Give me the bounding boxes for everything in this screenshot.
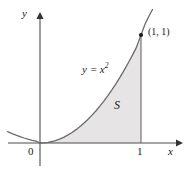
x-axis-label: x	[168, 146, 173, 157]
region-label-s: S	[114, 99, 120, 111]
x-axis-arrow-icon	[176, 139, 183, 146]
origin-tick-label: 0	[28, 146, 34, 157]
y-axis-label: y	[22, 8, 27, 19]
curve-equation-exponent: 2	[105, 61, 109, 70]
curve-equation-base: y = x	[82, 63, 105, 75]
figure-canvas: y x 0 1 y = x2 S (1, 1)	[0, 0, 192, 177]
curve-equation-label: y = x2	[82, 62, 108, 75]
y-axis-arrow-icon	[36, 12, 43, 19]
point-label-one-one: (1, 1)	[148, 27, 170, 37]
shaded-region-s	[40, 38, 141, 143]
point-marker-one-one	[139, 33, 143, 37]
x-tick-label-1: 1	[137, 146, 143, 157]
